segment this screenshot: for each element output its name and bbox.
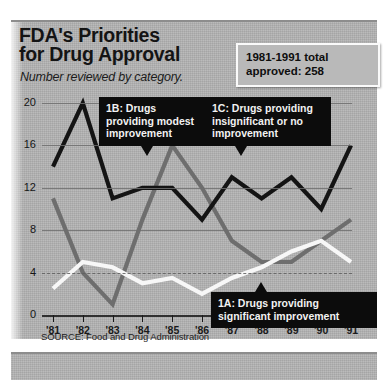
callout-1c-label: 1C: Drugs providing insignificant or no … <box>212 102 313 139</box>
source-note: SOURCE: Food and Drug Administration <box>41 331 209 342</box>
total-box-line-1: 1981-1991 total <box>246 51 371 65</box>
y-axis-label-16: 16 <box>12 138 36 150</box>
y-axis-label-4: 4 <box>12 266 36 278</box>
chart-subtitle: Number reviewed by category. <box>20 70 250 84</box>
callout-1c-pointer <box>235 146 247 156</box>
x-tick-85 <box>172 315 173 322</box>
x-tick-83 <box>113 315 114 322</box>
series-line-1b <box>53 145 351 304</box>
page-title: FDA's Priorities for Drug Approval <box>19 26 239 64</box>
x-tick-84 <box>142 315 143 322</box>
y-axis-label-12: 12 <box>12 181 36 193</box>
gridline-12 <box>42 188 352 189</box>
gridline-4 <box>42 273 352 274</box>
total-box-line-2: approved: 258 <box>246 65 371 79</box>
callout-1b-label: 1B: Drugs providing modest improvement <box>106 102 194 139</box>
callout-1a-label: 1A: Drugs providing significant improvem… <box>218 297 339 322</box>
total-approved-box: 1981-1991 total approved: 258 <box>236 43 380 87</box>
callout-1a: 1A: Drugs providing significant improvem… <box>211 292 377 328</box>
callout-1b: 1B: Drugs providing modest improvement <box>99 97 210 146</box>
gridline-16 <box>42 145 352 146</box>
y-axis-label-20: 20 <box>12 96 36 108</box>
bottom-strip <box>11 352 377 380</box>
x-tick-81 <box>53 315 54 322</box>
callout-1b-pointer <box>141 146 153 156</box>
title-line-2: for Drug Approval <box>19 45 239 64</box>
x-tick-86 <box>202 315 203 322</box>
x-tick-82 <box>83 315 84 322</box>
y-axis-label-8: 8 <box>12 223 36 235</box>
gridline-8 <box>42 230 352 231</box>
callout-1c: 1C: Drugs providing insignificant or no … <box>205 97 331 146</box>
y-axis-label-0: 0 <box>12 308 36 320</box>
callout-1a-pointer <box>255 282 267 292</box>
